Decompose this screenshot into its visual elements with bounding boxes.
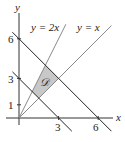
x-tick-label-3: 3 xyxy=(55,121,61,133)
line-x-plus-y-equals-6 xyxy=(12,32,111,131)
label-y-equals-x: y = x xyxy=(76,21,100,33)
y-tick-label-6: 6 xyxy=(8,33,14,45)
line-y-equals-x xyxy=(19,26,111,118)
x-tick-label-6: 6 xyxy=(93,121,99,133)
y-tick-label-1: 1 xyxy=(8,99,14,111)
line-y-equals-2x xyxy=(19,24,66,118)
label-y-equals-2x: y = 2x xyxy=(30,21,59,33)
x-axis-label: x xyxy=(115,111,121,123)
y-axis-label: y xyxy=(14,1,20,13)
region-diagram: y x y = 2x y = x 𝒟 6 3 1 3 6 xyxy=(0,0,125,142)
y-tick-label-3: 3 xyxy=(8,73,14,85)
